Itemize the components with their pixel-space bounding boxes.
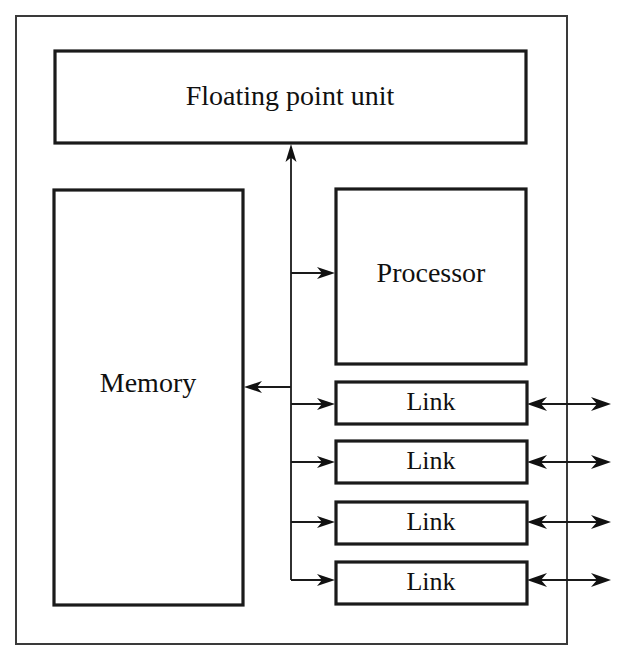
block-link-1[interactable]: Link bbox=[336, 382, 527, 424]
processor-label: Processor bbox=[377, 257, 487, 288]
floating-point-unit-label: Floating point unit bbox=[186, 80, 395, 111]
link-4-label: Link bbox=[406, 567, 455, 596]
block-memory[interactable]: Memory bbox=[54, 190, 243, 605]
link-1-label: Link bbox=[406, 387, 455, 416]
link-3-label: Link bbox=[406, 507, 455, 536]
block-floating-point-unit[interactable]: Floating point unit bbox=[55, 51, 526, 143]
block-link-3[interactable]: Link bbox=[336, 502, 527, 544]
link-2-label: Link bbox=[406, 446, 455, 475]
block-link-2[interactable]: Link bbox=[336, 441, 527, 483]
block-processor[interactable]: Processor bbox=[336, 189, 526, 364]
block-link-4[interactable]: Link bbox=[336, 562, 527, 604]
block-diagram: Floating point unit Memory Processor Lin… bbox=[0, 0, 623, 662]
diagram-canvas: Floating point unit Memory Processor Lin… bbox=[0, 0, 623, 662]
memory-label: Memory bbox=[100, 367, 196, 398]
